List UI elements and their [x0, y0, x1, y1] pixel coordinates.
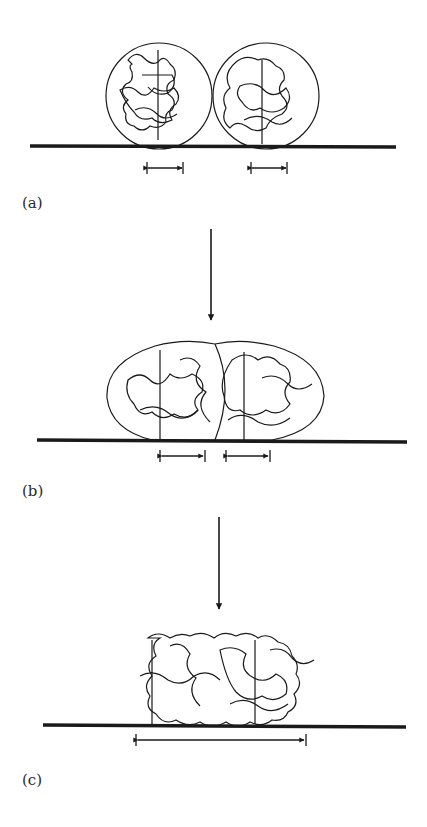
contact-arrows-b	[160, 450, 270, 462]
substrate-line-a	[30, 146, 396, 147]
film-formation-diagram	[0, 0, 427, 827]
panel-c-coalesced-film	[140, 633, 314, 726]
panel-label-c: (c)	[22, 771, 42, 789]
contact-arrow-c	[136, 734, 306, 746]
panel-a-particles	[106, 43, 319, 149]
substrate-line-c	[43, 725, 406, 727]
panel-label-a: (a)	[22, 194, 43, 212]
panel-b-deformed-particles	[107, 341, 324, 440]
substrate-line-b	[37, 440, 407, 442]
contact-arrows-a	[147, 162, 287, 174]
panel-label-b: (b)	[22, 482, 43, 500]
